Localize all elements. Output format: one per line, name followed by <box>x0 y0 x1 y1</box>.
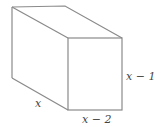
top-back-edge <box>12 6 122 38</box>
top-left-diagonal-edge <box>12 7 68 38</box>
depth-label: x <box>35 97 42 110</box>
prism-diagram: x x − 2 x − 1 <box>0 0 163 127</box>
front-face <box>68 38 122 110</box>
height-label: x − 1 <box>126 70 155 83</box>
width-label: x − 2 <box>82 113 111 126</box>
